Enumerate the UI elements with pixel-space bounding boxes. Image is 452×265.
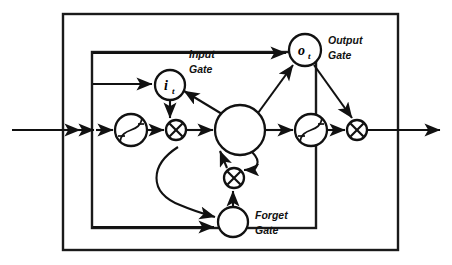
input-gate-label-line2: Gate <box>189 63 213 75</box>
forget-gate-node <box>218 207 248 237</box>
output-gate-node: o t <box>289 34 321 66</box>
recurrent-multiply-node <box>224 168 244 188</box>
input-gate-node: i t <box>155 70 185 100</box>
input-squash-node <box>115 114 147 146</box>
input-gate-symbol: i <box>164 78 168 93</box>
output-gate-symbol: o <box>298 43 305 58</box>
forget-gate-label-line2: Gate <box>255 224 279 236</box>
output-squash-node <box>295 114 327 146</box>
input-multiply-node <box>166 120 186 140</box>
cell-state-node <box>215 105 265 155</box>
output-multiply-node <box>347 120 367 140</box>
recurrent-multiply-to-cell-arrow <box>220 151 227 168</box>
lstm-diagram-svg: i t o t <box>0 0 452 265</box>
output-gate-to-multiply-arrow <box>314 65 352 118</box>
lstm-diagram-canvas: i t o t <box>0 0 452 265</box>
forget-gate-label-line1: Forget <box>255 209 288 221</box>
cell-to-input-gate-arrow <box>184 91 222 114</box>
output-gate-label-line2: Gate <box>328 49 352 61</box>
cell-to-forget-gate-curve <box>157 147 216 217</box>
cell-to-output-gate-arrow <box>258 65 293 113</box>
input-gate-label-line1: Input <box>189 48 215 60</box>
output-gate-label-line1: Output <box>328 34 363 46</box>
